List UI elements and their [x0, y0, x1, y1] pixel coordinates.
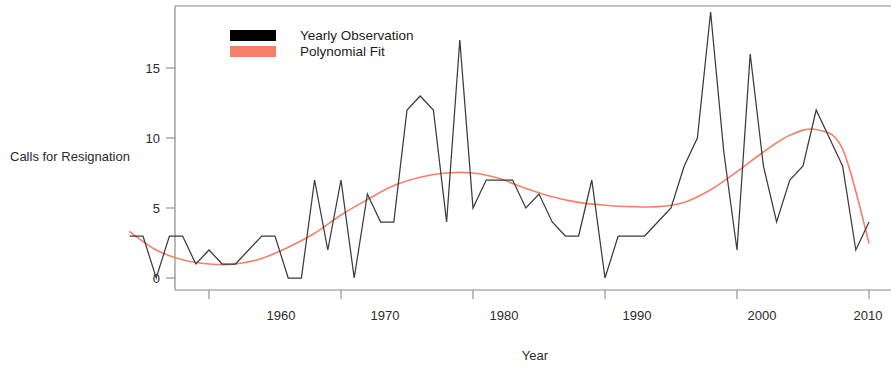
chart-figure: 15 10 5 0 Calls for Resignation 1960 197…	[0, 0, 891, 374]
chart-canvas: 15 10 5 0 Calls for Resignation 1960 197…	[0, 0, 891, 374]
x-tick-label-1980: 1980	[490, 308, 519, 323]
legend-swatch-yearly-observation	[230, 30, 276, 41]
legend-label-yearly-observation: Yearly Observation	[300, 28, 414, 43]
x-tick-label-1990: 1990	[623, 308, 652, 323]
x-tick-label-2000: 2000	[748, 308, 777, 323]
y-tick-label-10: 10	[146, 131, 160, 146]
legend-swatch-polynomial-fit	[230, 46, 276, 57]
x-axis-title: Year	[522, 348, 549, 363]
x-tick-label-2010: 2010	[854, 308, 883, 323]
legend-label-polynomial-fit: Polynomial Fit	[300, 44, 385, 59]
x-tick-label-1960: 1960	[267, 308, 296, 323]
y-tick-label-5: 5	[153, 201, 160, 216]
y-axis-title: Calls for Resignation	[10, 149, 130, 164]
x-tick-label-1970: 1970	[371, 308, 400, 323]
y-tick-label-15: 15	[146, 61, 160, 76]
